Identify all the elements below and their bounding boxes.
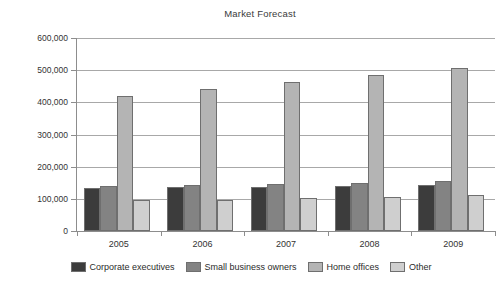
bar [267, 184, 284, 231]
x-axis-label: 2007 [244, 239, 328, 249]
bar [300, 198, 317, 231]
market-forecast-chart: Market Forecast 0100,000200,000300,00040… [0, 0, 502, 291]
bar [133, 200, 150, 231]
y-axis-label: 600,000 [6, 33, 68, 43]
y-axis-label: 400,000 [6, 97, 68, 107]
x-axis-label: 2006 [161, 239, 245, 249]
bar [100, 186, 117, 231]
legend-item: Other [390, 262, 432, 272]
bar [384, 197, 401, 231]
legend-swatch-icon [308, 262, 323, 272]
y-axis-tick [71, 102, 77, 103]
legend-label: Small business owners [205, 262, 297, 272]
bar [184, 185, 201, 231]
bar [335, 186, 352, 231]
x-axis-label: 2008 [328, 239, 412, 249]
y-axis-label: 200,000 [6, 162, 68, 172]
bar-groups [77, 38, 495, 231]
bar [84, 188, 101, 231]
x-axis-tick [411, 231, 412, 236]
y-axis-tick [71, 135, 77, 136]
legend-swatch-icon [71, 262, 86, 272]
bar [217, 200, 234, 231]
bar-group [328, 38, 412, 231]
bar [368, 75, 385, 231]
bar [117, 96, 134, 231]
y-axis-tick [71, 167, 77, 168]
x-axis-label: 2009 [411, 239, 495, 249]
x-axis-label: 2005 [77, 239, 161, 249]
bar [418, 185, 435, 231]
legend-item: Home offices [308, 262, 379, 272]
x-axis-line [76, 231, 495, 232]
bar [468, 195, 485, 231]
legend-label: Corporate executives [90, 262, 175, 272]
legend-item: Small business owners [186, 262, 297, 272]
y-axis-label: 300,000 [6, 130, 68, 140]
y-axis-label: 0 [6, 226, 68, 236]
bar [451, 68, 468, 231]
x-axis-tick [495, 231, 496, 236]
x-axis-tick [77, 231, 78, 236]
bar [284, 82, 301, 231]
bar [251, 187, 268, 231]
y-axis-tick [71, 199, 77, 200]
bar [435, 181, 452, 231]
y-axis-tick [71, 70, 77, 71]
legend-swatch-icon [186, 262, 201, 272]
bar [167, 187, 184, 231]
chart-legend: Corporate executivesSmall business owner… [0, 262, 502, 272]
bar [351, 183, 368, 231]
y-axis-label: 100,000 [6, 194, 68, 204]
x-axis-tick [328, 231, 329, 236]
x-axis-tick [244, 231, 245, 236]
legend-swatch-icon [390, 262, 405, 272]
bar-group [77, 38, 161, 231]
y-axis-tick [71, 38, 77, 39]
legend-label: Other [409, 262, 432, 272]
legend-item: Corporate executives [71, 262, 175, 272]
y-axis-label: 500,000 [6, 65, 68, 75]
bar-group [161, 38, 245, 231]
bar-group [244, 38, 328, 231]
bar [200, 89, 217, 231]
bar-group [411, 38, 495, 231]
x-axis-tick [161, 231, 162, 236]
chart-title: Market Forecast [0, 8, 502, 19]
y-axis-labels: 0100,000200,000300,000400,000500,000600,… [0, 0, 68, 291]
legend-label: Home offices [327, 262, 379, 272]
